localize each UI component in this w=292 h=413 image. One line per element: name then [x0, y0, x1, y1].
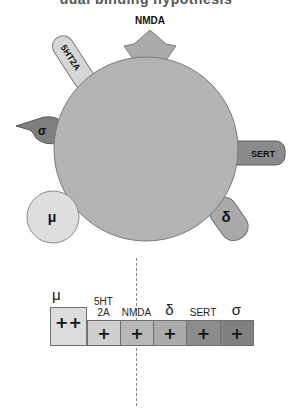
receptor-diagram: 5HT2A NMDA σ SERT δ μ — [0, 0, 292, 300]
table-header-mu: μ — [52, 287, 72, 302]
table-cell-5ht2a: + — [87, 320, 121, 346]
receptor-nmda: NMDA — [124, 15, 176, 60]
receptor-mu: μ — [27, 191, 79, 243]
table-cell-sert: + — [186, 320, 221, 346]
receptor-sigma: σ — [16, 117, 60, 144]
table-header-5ht2a-line2: 2A — [87, 307, 120, 318]
table-cell-delta: + — [153, 320, 187, 346]
receptor-mu-label: μ — [48, 209, 57, 225]
table-cell-mu: ++ — [50, 307, 87, 346]
receptor-nmda-label: NMDA — [135, 15, 165, 26]
cell-body — [54, 57, 238, 241]
table-header-nmda: NMDA — [118, 307, 155, 318]
table-cell-sigma: + — [220, 320, 254, 346]
table-header-delta: δ — [153, 302, 186, 317]
receptor-sert-label: SERT — [251, 149, 276, 159]
table-header-sigma: σ — [220, 302, 253, 317]
table-header-5ht2a-line1: 5HT — [87, 296, 120, 307]
table-header-sert: SERT — [186, 307, 220, 318]
table-header-5ht2a: 5HT 2A — [87, 296, 120, 318]
table-cell-nmda: + — [120, 320, 154, 346]
receptor-delta-label: δ — [221, 208, 230, 225]
receptor-sigma-label: σ — [38, 124, 46, 138]
